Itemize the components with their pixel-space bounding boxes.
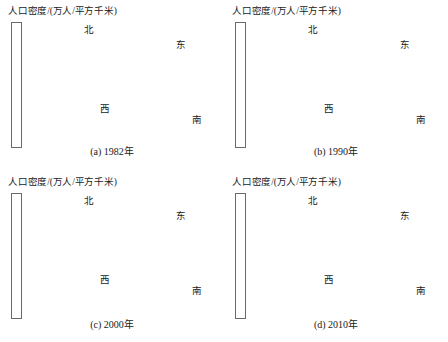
direction-label-west: 西 <box>100 104 110 114</box>
population-density-figure: 人口密度/(万人/平方千米) 北 东 西 南 (a) 1982年 人口密度/(万… <box>0 0 448 342</box>
panel-1982: 人口密度/(万人/平方千米) 北 东 西 南 (a) 1982年 <box>0 0 224 171</box>
colorbar-gradient <box>235 22 246 148</box>
direction-label-east: 东 <box>176 40 186 50</box>
direction-label-south: 南 <box>192 115 202 125</box>
panel-2000: 人口密度/(万人/平方千米) 北 东 西 南 (c) 2000年 <box>0 171 224 342</box>
direction-label-west: 西 <box>324 104 334 114</box>
colorbar-ticks <box>246 22 280 148</box>
direction-label-east: 东 <box>400 211 410 221</box>
direction-label-north: 北 <box>308 196 318 206</box>
colorbar-ticks <box>22 22 56 148</box>
colorbar-gradient <box>11 193 22 319</box>
direction-label-south: 南 <box>192 286 202 296</box>
panel-2010: 人口密度/(万人/平方千米) 北 东 西 南 (d) 2010年 <box>224 171 448 342</box>
direction-label-south: 南 <box>416 115 426 125</box>
colorbar <box>11 22 57 148</box>
direction-label-west: 西 <box>324 275 334 285</box>
colorbar <box>11 193 57 319</box>
direction-label-west: 西 <box>100 275 110 285</box>
direction-label-east: 东 <box>400 40 410 50</box>
colorbar-gradient <box>235 193 246 319</box>
colorbar-ticks <box>22 193 56 319</box>
direction-label-north: 北 <box>84 196 94 206</box>
direction-label-south: 南 <box>416 286 426 296</box>
panel-caption: (d) 2010年 <box>224 319 448 331</box>
direction-label-north: 北 <box>84 25 94 35</box>
colorbar-gradient <box>11 22 22 148</box>
colorbar <box>235 193 281 319</box>
direction-label-north: 北 <box>308 25 318 35</box>
colorbar <box>235 22 281 148</box>
panel-1990: 人口密度/(万人/平方千米) 北 东 西 南 (b) 1990年 <box>224 0 448 171</box>
panel-caption: (a) 1982年 <box>0 146 224 158</box>
colorbar-ticks <box>246 193 280 319</box>
panel-caption: (c) 2000年 <box>0 319 224 331</box>
panel-caption: (b) 1990年 <box>224 146 448 158</box>
direction-label-east: 东 <box>176 211 186 221</box>
